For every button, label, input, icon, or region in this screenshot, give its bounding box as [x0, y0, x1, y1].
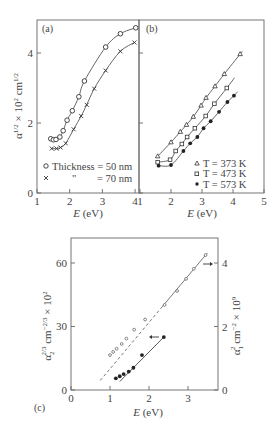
data-point-alpha2	[132, 366, 136, 370]
panel-a-tag: (a)	[42, 23, 53, 35]
legend-circle-open-icon	[44, 164, 48, 168]
panel-c-x-tick-label: 3	[185, 392, 191, 404]
panel-c-x-ticks: 0123	[68, 386, 191, 404]
panel-a-x-tick-label: 3	[100, 195, 106, 207]
panel-a-legend: Thickness = 50 nm " = 70 nm	[44, 161, 132, 184]
legend-circle-filled-icon	[195, 182, 198, 185]
data-point-50nm	[82, 79, 87, 84]
data-point-alpha1	[176, 290, 179, 293]
data-point-alpha1	[163, 304, 166, 307]
panel-c-frame	[71, 238, 218, 390]
panel-c-x-tick-label: 2	[146, 392, 152, 404]
data-point-50nm	[58, 135, 63, 140]
panel-a-y-tick-label: 0	[28, 187, 34, 199]
data-point-alpha1	[115, 347, 118, 350]
arrow-right-icon	[203, 262, 213, 266]
panel-a-y-tick-label: 4	[28, 47, 34, 59]
data-point-473K	[204, 114, 208, 118]
panel-c-right-y-ticks: 024	[214, 257, 228, 396]
panel-a: (a) 1234 024 E (eV) α1/2 × 102 cm1/2 Thi…	[12, 20, 139, 220]
data-point-alpha1	[204, 254, 207, 257]
data-point-50nm	[118, 31, 123, 36]
panel-c-left-y-ticks: 03060	[56, 257, 75, 396]
panel-c-right-y-tick-label: 4	[222, 257, 228, 269]
panel-a-data-points	[48, 26, 138, 151]
panel-c-x-axis-label: E (eV)	[132, 406, 163, 419]
data-point-alpha1	[144, 318, 147, 321]
data-point-alpha1	[125, 337, 128, 340]
data-point-alpha1	[120, 343, 123, 346]
data-point-alpha1	[185, 277, 188, 280]
panel-a-y-axis-label: α1/2 × 102 cm1/2	[12, 72, 24, 139]
data-point-573K	[202, 126, 206, 130]
panel-b-x-tick-label: 5	[261, 195, 267, 207]
data-point-473K	[185, 135, 189, 139]
data-point-50nm	[65, 118, 70, 123]
panel-b-x-tick-label: 1	[137, 195, 143, 207]
panel-c-left-y-axis-label: α22/3 cm−2/3 × 102	[40, 291, 56, 361]
panel-b-x-tick-label: 3	[199, 195, 205, 207]
data-point-alpha2	[118, 374, 122, 378]
fit-line-alpha1-dashed	[100, 309, 160, 381]
panel-b-y-ticks	[139, 53, 143, 193]
data-point-50nm	[103, 45, 108, 50]
panel-c-tag: (c)	[34, 402, 45, 414]
panel-b-tag: (b)	[146, 23, 158, 35]
curve-473K	[158, 78, 235, 162]
panel-b-data-points	[155, 52, 242, 168]
panel-c-right-y-tick-label: 0	[222, 384, 228, 396]
fit-line-alpha1-solid	[161, 253, 208, 309]
panel-c-data-points	[109, 254, 207, 381]
panel-a-x-tick-label: 1	[34, 195, 40, 207]
panel-a-x-axis-label: E (eV)	[72, 207, 103, 220]
panel-a-y-tick-label: 2	[28, 117, 34, 129]
data-point-473K	[180, 142, 184, 146]
data-point-70nm	[72, 127, 76, 131]
data-point-70nm	[85, 103, 89, 107]
panel-c: 0123 03060 024 (c) E (eV) α22/3 cm−2/3 ×…	[34, 238, 245, 419]
data-point-50nm	[133, 26, 138, 31]
data-point-50nm	[61, 128, 66, 133]
panel-b-x-tick-label: 4	[230, 195, 236, 207]
data-point-473K	[174, 149, 178, 153]
panel-a-legend-label-70nm: = 70 nm	[97, 173, 132, 184]
data-point-alpha2	[140, 353, 144, 357]
data-point-573K	[226, 100, 230, 104]
data-point-70nm	[132, 41, 136, 45]
legend-square-open-icon	[195, 172, 199, 176]
data-point-473K	[225, 86, 229, 90]
panel-c-x-tick-label: 0	[68, 392, 74, 404]
panel-a-x-tick-label: 2	[67, 195, 73, 207]
data-point-50nm	[70, 108, 75, 113]
data-point-573K	[209, 119, 213, 123]
figure-canvas: (a) 1234 024 E (eV) α1/2 × 102 cm1/2 Thi…	[0, 0, 275, 439]
data-point-573K	[188, 141, 192, 145]
panel-a-x-ticks: 1234	[34, 189, 138, 207]
curve-50nm	[51, 28, 136, 140]
data-point-alpha1	[112, 351, 115, 354]
data-point-70nm	[59, 146, 63, 150]
data-point-alpha2	[162, 335, 166, 339]
data-point-573K	[157, 164, 161, 168]
data-point-473K	[168, 158, 172, 162]
data-point-alpha1	[133, 328, 136, 331]
panel-c-left-y-tick-label: 30	[56, 320, 68, 332]
panel-a-legend-label-50nm: Thickness = 50 nm	[52, 161, 132, 172]
data-point-573K	[169, 163, 173, 167]
data-point-alpha1	[109, 354, 112, 357]
legend-x-marker-icon	[44, 176, 48, 180]
panel-c-left-y-tick-label: 0	[62, 384, 68, 396]
panel-b-x-tick-label: 2	[168, 195, 174, 207]
panel-c-x-tick-label: 1	[107, 392, 113, 404]
data-point-473K	[213, 102, 217, 106]
data-point-573K	[195, 135, 199, 139]
panel-b: (b) 12345 E (eV) T = 373 K T = 473 K T =…	[137, 20, 267, 220]
arrow-left-icon	[149, 335, 159, 339]
panel-b-legend: T = 373 K T = 473 K T = 573 K	[195, 158, 247, 190]
panel-c-left-y-tick-label: 60	[56, 257, 68, 269]
data-point-573K	[232, 94, 236, 98]
data-point-70nm	[79, 114, 83, 118]
data-point-70nm	[104, 69, 108, 73]
data-point-alpha2	[114, 376, 118, 380]
fit-line-alpha2	[120, 337, 164, 381]
